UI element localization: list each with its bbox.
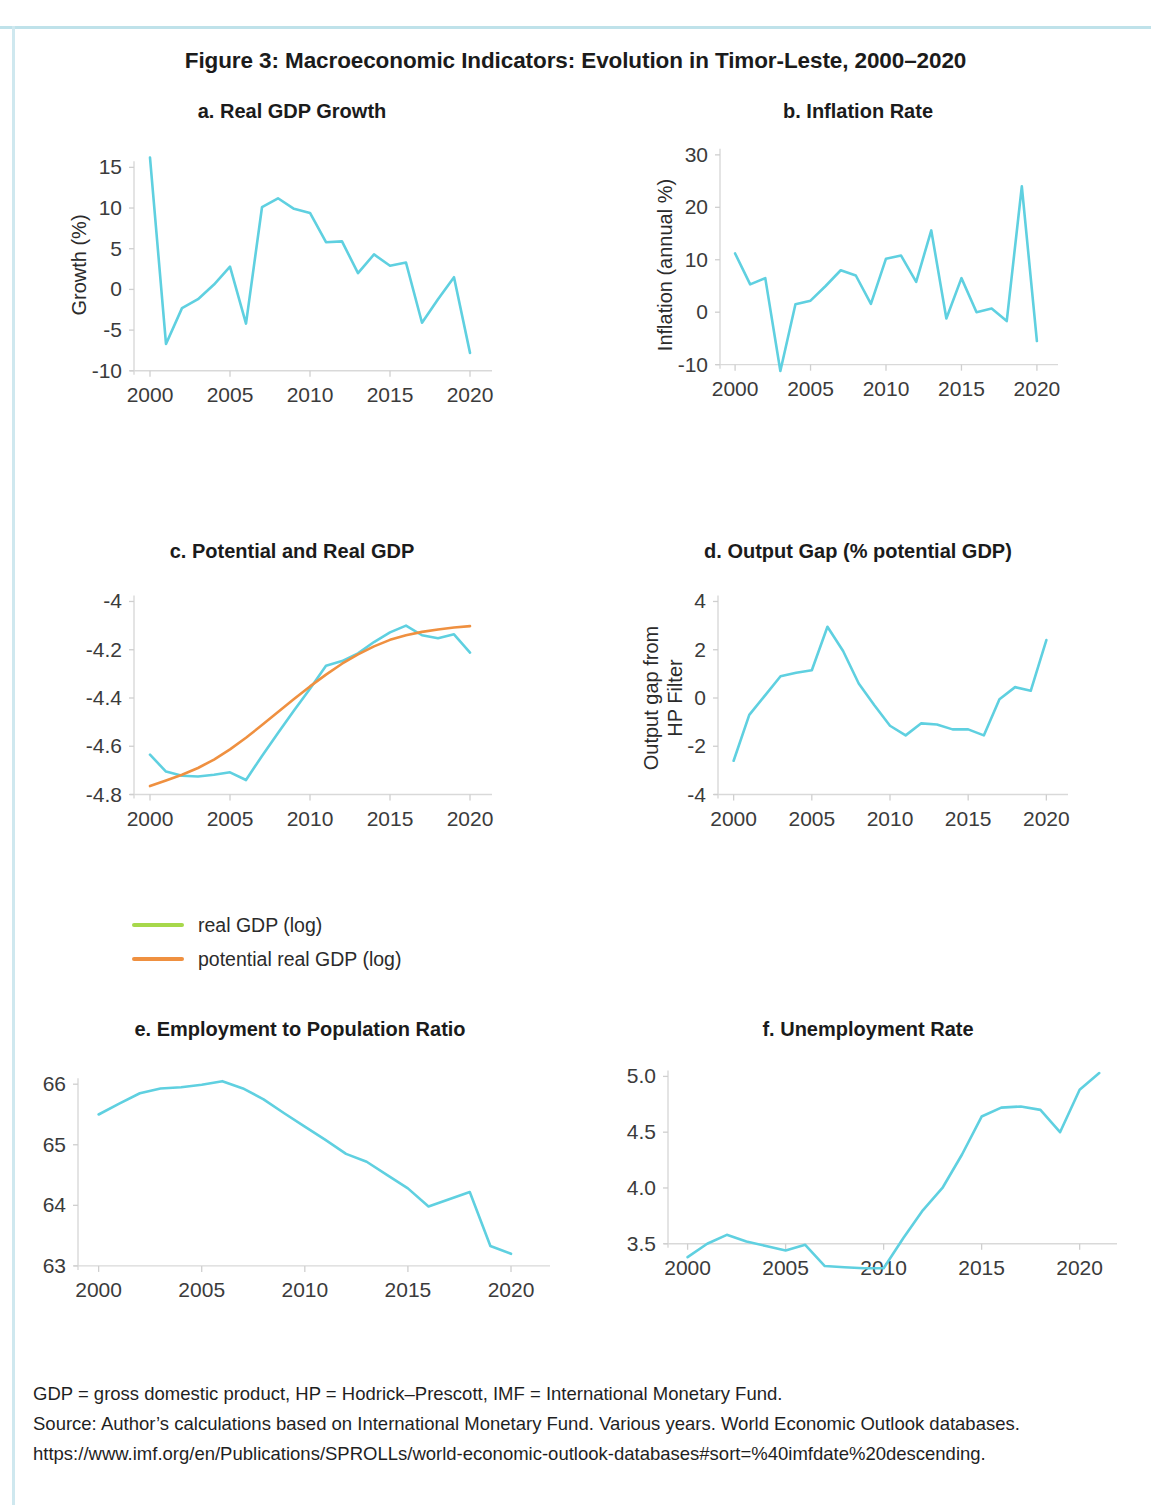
y-tick-label: -5: [103, 318, 122, 341]
x-tick-label: 2015: [938, 377, 985, 400]
x-tick-label: 2005: [207, 807, 254, 830]
panel-c-potential-and-real-gdp: c. Potential and Real GDP -4.8-4.6-4.4-4…: [42, 540, 542, 865]
legend-label-potential-real-gdp: potential real GDP (log): [198, 948, 401, 971]
y-tick-label: 64: [43, 1193, 67, 1216]
legend-swatch-real-gdp: [132, 923, 184, 927]
figure-title: Figure 3: Macroeconomic Indicators: Evol…: [0, 48, 1151, 74]
footnote-source: Source: Author’s calculations based on I…: [33, 1409, 1133, 1439]
x-tick-label: 2010: [287, 807, 334, 830]
footnote-abbreviations: GDP = gross domestic product, HP = Hodri…: [33, 1379, 1133, 1409]
y-tick-label: 20: [685, 195, 708, 218]
panel-f-plot: 3.54.04.55.020002005201020152020: [592, 1043, 1144, 1333]
x-tick-label: 2000: [127, 383, 174, 406]
panel-d-plot: -4-202420002005201020152020Output gap fr…: [598, 565, 1118, 865]
y-tick-label: 63: [43, 1254, 66, 1277]
y-tick-label: -4.4: [86, 686, 123, 709]
x-tick-label: 2015: [385, 1278, 432, 1301]
y-tick-label: -10: [92, 359, 122, 382]
x-tick-label: 2005: [762, 1256, 809, 1279]
x-tick-label: 2010: [867, 807, 914, 830]
y-axis-title: Output gap from: [640, 626, 662, 771]
panel-b-title: b. Inflation Rate: [608, 100, 1108, 123]
y-tick-label: 4: [694, 589, 706, 612]
x-tick-label: 2000: [127, 807, 174, 830]
y-tick-label: 15: [99, 155, 122, 178]
y-tick-label: -4.6: [86, 734, 122, 757]
chart-e-svg: 6364656620002005201020152020: [20, 1043, 570, 1333]
x-tick-label: 2015: [945, 807, 992, 830]
panel-a-title: a. Real GDP Growth: [42, 100, 542, 123]
panel-d-output-gap: d. Output Gap (% potential GDP) -4-20242…: [598, 540, 1118, 865]
footnote-url[interactable]: https://www.imf.org/en/Publications/SPRO…: [33, 1439, 1133, 1469]
x-tick-label: 2005: [207, 383, 254, 406]
y-tick-label: 4.5: [627, 1120, 656, 1143]
chart-d-svg: -4-202420002005201020152020Output gap fr…: [598, 565, 1088, 865]
chart-f-svg: 3.54.04.55.020002005201020152020: [592, 1043, 1137, 1333]
y-tick-label: 0: [110, 277, 122, 300]
y-axis-title: Growth (%): [68, 214, 90, 315]
x-tick-label: 2020: [447, 807, 494, 830]
panel-b-inflation-rate: b. Inflation Rate -100102030200020052010…: [608, 100, 1108, 445]
chart-b-svg: -10010203020002005201020152020Inflation …: [608, 125, 1078, 445]
y-tick-label: 3.5: [627, 1232, 656, 1255]
page-frame-left-rule: [12, 26, 15, 1505]
y-tick-label: 30: [685, 143, 708, 166]
panel-a-real-gdp-growth: a. Real GDP Growth -10-50510152000200520…: [42, 100, 542, 445]
panel-f-unemployment-rate: f. Unemployment Rate 3.54.04.55.02000200…: [592, 1018, 1144, 1333]
figure-page: Figure 3: Macroeconomic Indicators: Evol…: [0, 0, 1151, 1505]
series-line: [99, 1081, 511, 1254]
y-tick-label: 65: [43, 1133, 66, 1156]
series-line: [150, 626, 470, 786]
figure-footnote: GDP = gross domestic product, HP = Hodri…: [33, 1379, 1133, 1469]
series-line: [150, 626, 470, 780]
x-tick-label: 2020: [447, 383, 494, 406]
y-tick-label: -4: [687, 783, 706, 806]
x-tick-label: 2015: [367, 383, 414, 406]
y-tick-label: -4.8: [86, 783, 122, 806]
x-tick-label: 2000: [710, 807, 757, 830]
y-axis-title: Inflation (annual %): [654, 179, 676, 351]
x-tick-label: 2020: [1056, 1256, 1103, 1279]
panel-a-plot: -10-505101520002005201020152020Growth (%…: [42, 125, 542, 445]
panel-c-plot: -4.8-4.6-4.4-4.2-420002005201020152020: [42, 565, 542, 865]
y-tick-label: 2: [694, 638, 706, 661]
y-tick-label: 10: [685, 248, 708, 271]
x-tick-label: 2000: [75, 1278, 122, 1301]
panel-e-title: e. Employment to Population Ratio: [20, 1018, 580, 1041]
y-tick-label: 66: [43, 1072, 66, 1095]
legend-item-real-gdp: real GDP (log): [132, 908, 401, 942]
x-tick-label: 2005: [788, 807, 835, 830]
panel-f-title: f. Unemployment Rate: [592, 1018, 1144, 1041]
y-tick-label: 10: [99, 196, 122, 219]
panel-b-plot: -10010203020002005201020152020Inflation …: [608, 125, 1108, 445]
series-line: [688, 1073, 1100, 1268]
y-tick-label: 4.0: [627, 1176, 656, 1199]
series-line: [734, 627, 1047, 761]
x-tick-label: 2020: [1023, 807, 1070, 830]
x-tick-label: 2010: [287, 383, 334, 406]
panel-c-title: c. Potential and Real GDP: [42, 540, 542, 563]
y-tick-label: -4: [103, 589, 122, 612]
chart-legend: real GDP (log) potential real GDP (log): [132, 908, 401, 976]
x-tick-label: 2010: [863, 377, 910, 400]
series-line: [150, 158, 470, 353]
x-tick-label: 2020: [488, 1278, 535, 1301]
legend-item-potential-real-gdp: potential real GDP (log): [132, 942, 401, 976]
x-tick-label: 2000: [664, 1256, 711, 1279]
panel-e-plot: 6364656620002005201020152020: [20, 1043, 580, 1333]
legend-swatch-potential-real-gdp: [132, 957, 184, 961]
x-tick-label: 2005: [178, 1278, 225, 1301]
y-tick-label: -2: [687, 734, 706, 757]
panel-d-title: d. Output Gap (% potential GDP): [598, 540, 1118, 563]
y-tick-label: -4.2: [86, 638, 122, 661]
y-tick-label: 5: [110, 237, 122, 260]
chart-c-svg: -4.8-4.6-4.4-4.2-420002005201020152020: [42, 565, 512, 865]
x-tick-label: 2015: [367, 807, 414, 830]
y-tick-label: -10: [678, 353, 708, 376]
y-tick-label: 0: [694, 686, 706, 709]
page-frame-top-rule: [0, 26, 1151, 29]
y-tick-label: 0: [696, 300, 708, 323]
series-line: [735, 186, 1037, 371]
y-tick-label: 5.0: [627, 1064, 656, 1087]
x-tick-label: 2010: [281, 1278, 328, 1301]
